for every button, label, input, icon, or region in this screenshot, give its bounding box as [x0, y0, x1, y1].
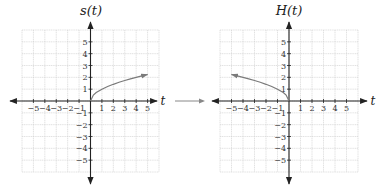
y-tick-label: −5 [274, 156, 286, 165]
y-tick-label: −3 [274, 133, 286, 142]
y-tick-label: 4 [281, 50, 286, 59]
data-curve [91, 74, 148, 101]
y-tick-label: −4 [76, 144, 88, 153]
figure: −5−4−3−2−11234554321−1−2−3−4−5s(t)t −5−4… [0, 0, 381, 192]
chart-s-of-t: −5−4−3−2−11234554321−1−2−3−4−5s(t)t [10, 3, 166, 184]
x-tick-label: 3 [321, 104, 326, 113]
y-tick-label: 1 [82, 85, 87, 94]
x-tick-label: 2 [111, 104, 116, 113]
x-tick-label: 4 [134, 104, 139, 113]
x-tick-label: −2 [62, 104, 74, 113]
x-tick-label: −4 [237, 104, 249, 113]
y-tick-label: −1 [274, 109, 286, 118]
x-tick-label: −3 [50, 104, 62, 113]
y-tick-label: 4 [82, 50, 87, 59]
x-tick-label: 3 [122, 104, 127, 113]
x-tick-label: −5 [226, 104, 238, 113]
y-tick-label: −1 [76, 109, 88, 118]
x-tick-label: −2 [260, 104, 272, 113]
y-tick-label: −5 [76, 156, 88, 165]
y-tick-label: 5 [281, 38, 286, 47]
y-tick-label: 3 [82, 62, 87, 71]
transform-arrow-icon [175, 99, 205, 104]
chart-h-of-t: −5−4−3−2−11234554321−1−2−3−4−5H(t)t [212, 3, 376, 184]
x-tick-label: 1 [99, 104, 104, 113]
x-axis-label: t [161, 94, 166, 108]
x-tick-label: 4 [332, 104, 337, 113]
x-axis-label: t [371, 94, 376, 108]
x-tick-label: −3 [249, 104, 261, 113]
x-tick-label: −4 [39, 104, 51, 113]
x-tick-label: 5 [145, 104, 150, 113]
y-tick-label: 2 [281, 73, 286, 82]
y-tick-label: −3 [76, 133, 88, 142]
x-tick-label: 5 [344, 104, 349, 113]
x-tick-label: 2 [309, 104, 314, 113]
y-tick-label: −4 [274, 144, 286, 153]
chart-title: H(t) [275, 3, 303, 18]
y-tick-label: 3 [281, 62, 286, 71]
x-tick-label: 1 [298, 104, 303, 113]
y-tick-label: 2 [82, 73, 87, 82]
chart-title: s(t) [80, 3, 102, 18]
y-tick-label: −2 [274, 121, 286, 130]
y-tick-label: 5 [82, 38, 87, 47]
y-tick-label: −2 [76, 121, 88, 130]
x-tick-label: −5 [28, 104, 40, 113]
